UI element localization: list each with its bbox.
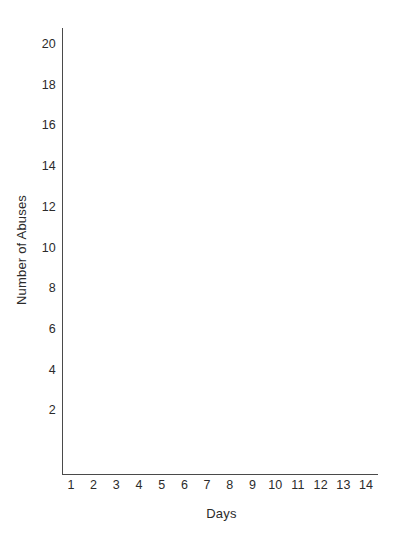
chart-container: 20 18 16 14 12 10 8 6 4 2 1 2 3 4 5 6 7 … xyxy=(0,0,395,543)
y-axis-line xyxy=(62,28,63,475)
x-tick-label: 2 xyxy=(90,479,97,492)
x-tick-label: 7 xyxy=(204,479,211,492)
x-tick-label: 6 xyxy=(181,479,188,492)
x-axis-title-text: Days xyxy=(206,506,236,521)
x-tick-label: 10 xyxy=(268,479,282,492)
x-tick-label: 1 xyxy=(67,479,74,492)
x-tick-label: 8 xyxy=(226,479,233,492)
x-tick-label: 12 xyxy=(314,479,328,492)
y-tick-label: 16 xyxy=(0,119,56,132)
y-tick-label: 20 xyxy=(0,38,56,51)
x-tick-label: 9 xyxy=(249,479,256,492)
y-tick-label: 18 xyxy=(0,79,56,92)
x-axis-tick-labels: 1 2 3 4 5 6 7 8 9 10 11 12 13 14 xyxy=(0,479,395,497)
x-tick-label: 4 xyxy=(136,479,143,492)
y-axis-title: Number of Abuses xyxy=(14,195,29,305)
y-tick-label: 4 xyxy=(0,364,56,377)
y-tick-label: 6 xyxy=(0,323,56,336)
x-tick-label: 3 xyxy=(113,479,120,492)
x-axis-title: Days xyxy=(0,506,395,521)
y-tick-label: 14 xyxy=(0,160,56,173)
y-tick-label: 2 xyxy=(0,404,56,417)
x-tick-label: 14 xyxy=(359,479,373,492)
plot-area xyxy=(63,28,378,474)
x-tick-label: 5 xyxy=(158,479,165,492)
x-tick-label: 11 xyxy=(291,479,304,492)
x-axis-line xyxy=(62,474,378,475)
x-tick-label: 13 xyxy=(336,479,350,492)
